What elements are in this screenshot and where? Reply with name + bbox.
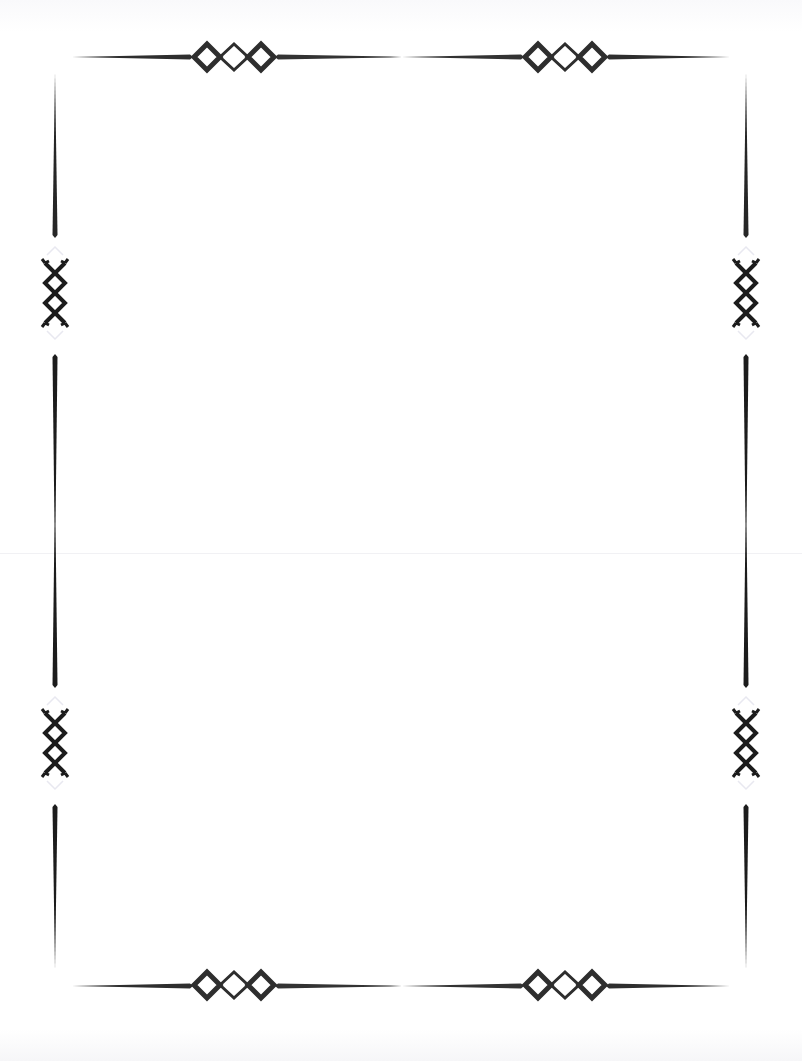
- crossed-diamond-ornament: [42, 247, 68, 339]
- tapered-line: [53, 354, 58, 525]
- top-border: [72, 44, 730, 70]
- crossed-diamond-ornament: [42, 697, 68, 789]
- tapered-line: [72, 55, 193, 60]
- left-border: [42, 72, 68, 970]
- tapered-line: [744, 525, 749, 688]
- page-body: [80, 90, 720, 970]
- tapered-line: [744, 72, 749, 238]
- tapered-line: [53, 525, 58, 688]
- tapered-line: [744, 804, 749, 970]
- tapered-line: [53, 72, 58, 238]
- tapered-line: [72, 984, 193, 989]
- tapered-line: [275, 55, 402, 60]
- diamond-chain-ornament: [194, 972, 274, 998]
- diamond-chain-ornament: [525, 44, 605, 70]
- tapered-line: [275, 984, 402, 989]
- crossed-diamond-ornament: [733, 697, 759, 789]
- tapered-line: [744, 354, 749, 525]
- tapered-line: [402, 984, 524, 989]
- tapered-line: [53, 804, 58, 970]
- right-border: [733, 72, 759, 970]
- document-page: [0, 0, 802, 1061]
- tapered-line: [402, 55, 524, 60]
- crossed-diamond-ornament: [733, 247, 759, 339]
- tapered-line: [606, 984, 730, 989]
- diamond-chain-ornament: [194, 44, 274, 70]
- tapered-line: [606, 55, 730, 60]
- bottom-border: [72, 972, 730, 998]
- diamond-chain-ornament: [525, 972, 605, 998]
